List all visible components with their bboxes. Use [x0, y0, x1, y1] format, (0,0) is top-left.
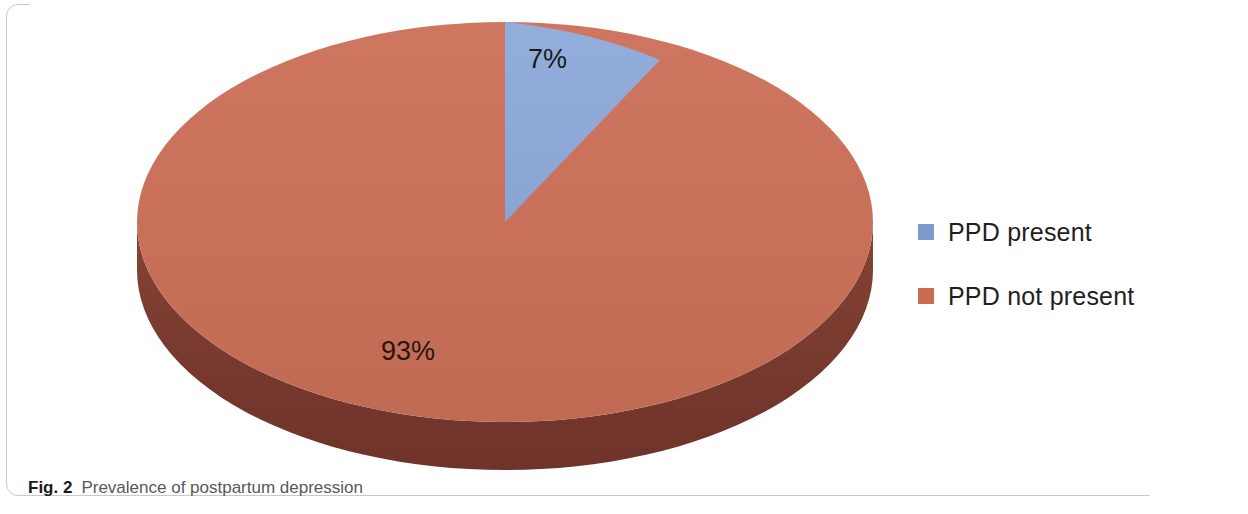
legend-swatch-ppd-present: [918, 224, 934, 240]
legend-label-ppd-present: PPD present: [948, 220, 1092, 245]
legend-label-ppd-not-present: PPD not present: [948, 284, 1134, 309]
figure-caption-text: Prevalence of postpartum depression: [81, 478, 363, 498]
pie-top-face: [137, 22, 873, 422]
slice-label-ppd-not-present: 93%: [381, 336, 435, 366]
legend-item-ppd-present: PPD present: [918, 214, 1218, 250]
figure-caption-label: Fig. 2: [28, 478, 72, 498]
slice-label-ppd-present: 7%: [528, 44, 567, 74]
figure-container: 7% 93% PPD present PPD not present Fig. …: [0, 0, 1248, 514]
chart-legend: PPD present PPD not present: [918, 214, 1218, 342]
legend-swatch-ppd-not-present: [918, 288, 934, 304]
figure-caption: Fig. 2 Prevalence of postpartum depressi…: [28, 478, 363, 498]
legend-item-ppd-not-present: PPD not present: [918, 278, 1218, 314]
